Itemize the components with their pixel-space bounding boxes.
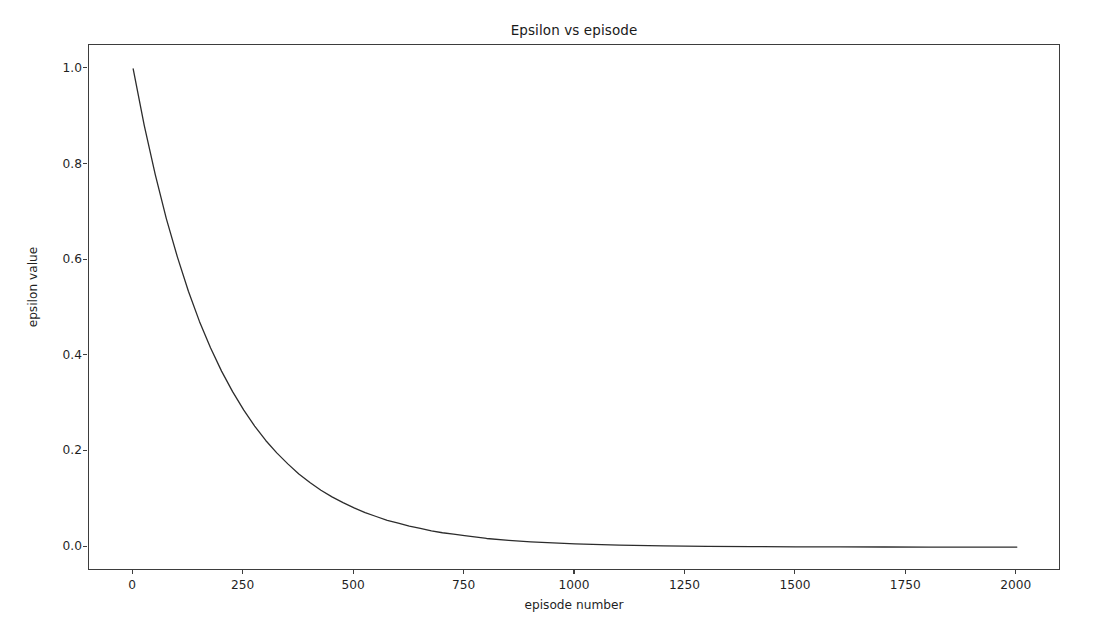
y-axis-tick-marks [83, 0, 88, 635]
x-tick-label: 0 [92, 578, 172, 592]
y-tick-label: 1.0 [36, 61, 82, 75]
plot-area [88, 44, 1060, 570]
y-tick-mark [83, 259, 87, 260]
y-axis-label: epsilon value [26, 212, 40, 362]
x-tick-label: 500 [313, 578, 393, 592]
x-tick-label: 1750 [865, 578, 945, 592]
y-tick-label: 0.2 [36, 443, 82, 457]
y-tick-label: 0.6 [36, 252, 82, 266]
y-tick-label: 0.8 [36, 157, 82, 171]
x-tick-mark [463, 570, 464, 574]
figure-canvas: Epsilon vs episode 0.00.20.40.60.81.0 02… [0, 0, 1094, 635]
y-tick-mark [83, 67, 87, 68]
chart-title: Epsilon vs episode [88, 22, 1060, 38]
x-tick-label: 2000 [976, 578, 1056, 592]
y-tick-label: 0.4 [36, 348, 82, 362]
x-tick-mark [794, 570, 795, 574]
x-tick-label: 1500 [755, 578, 835, 592]
x-axis-label: episode number [88, 598, 1060, 612]
y-tick-mark [83, 163, 87, 164]
data-line-svg [89, 45, 1061, 571]
x-tick-mark [242, 570, 243, 574]
x-tick-mark [353, 570, 354, 574]
y-tick-mark [83, 354, 87, 355]
y-tick-label: 0.0 [36, 539, 82, 553]
x-tick-mark [1015, 570, 1016, 574]
x-tick-label: 1250 [644, 578, 724, 592]
x-tick-mark [573, 570, 574, 574]
x-tick-mark [905, 570, 906, 574]
epsilon-decay-line [133, 69, 1017, 547]
x-tick-mark [132, 570, 133, 574]
x-tick-label: 250 [203, 578, 283, 592]
x-tick-label: 1000 [534, 578, 614, 592]
y-tick-mark [83, 450, 87, 451]
x-tick-label: 750 [424, 578, 504, 592]
x-tick-mark [684, 570, 685, 574]
y-tick-mark [83, 546, 87, 547]
